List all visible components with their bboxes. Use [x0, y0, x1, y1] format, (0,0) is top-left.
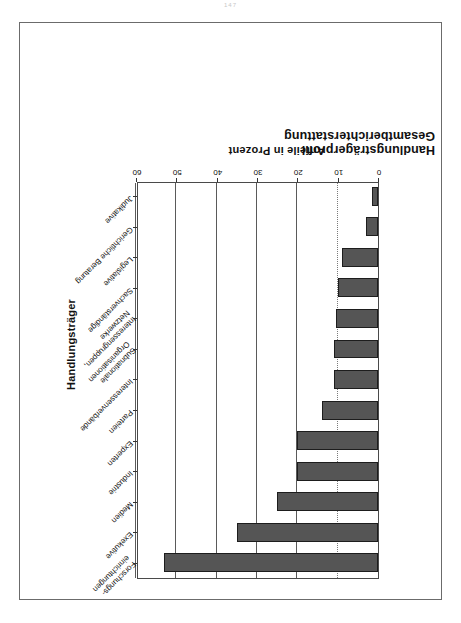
chart-title-line2: Gesamtberichterstattung: [284, 129, 435, 143]
category-label: Parteien: [107, 408, 134, 435]
page-number: 147: [0, 2, 461, 8]
y-tick-mark: [176, 178, 177, 182]
figure-frame: HandlungsträgerprofilGesamtberichterstat…: [19, 22, 442, 600]
bar: [372, 187, 378, 206]
gridline-40: [216, 183, 217, 578]
y-tick-label: 40: [205, 168, 231, 177]
bar: [342, 248, 378, 267]
bar: [297, 431, 378, 450]
bar: [336, 309, 378, 328]
y-tick-mark: [378, 178, 379, 182]
category-label: Gerichtliche Beratung: [74, 225, 134, 285]
category-tick-mark: [133, 349, 137, 350]
bar: [277, 492, 378, 511]
category-label: Forschungs- einrichtungen: [91, 553, 137, 599]
y-tick-mark: [136, 178, 137, 182]
category-label: Experten: [105, 438, 134, 467]
y-tick-mark: [297, 178, 298, 182]
bar: [297, 462, 378, 481]
category-tick-mark: [133, 257, 137, 258]
category-tick-mark: [133, 441, 137, 442]
category-tick-mark: [133, 196, 137, 197]
gridline-50: [175, 183, 176, 578]
category-tick-mark: [133, 471, 137, 472]
y-tick-label: 60: [124, 168, 150, 177]
bar: [366, 217, 378, 236]
y-tick-label: 30: [245, 168, 271, 177]
x-axis-title: Handlungsträger: [65, 299, 77, 390]
bar: [164, 553, 378, 572]
y-tick-mark: [257, 178, 258, 182]
bar: [334, 370, 378, 389]
category-tick-mark: [133, 288, 137, 289]
y-tick-label: 20: [285, 168, 311, 177]
bar: [237, 523, 378, 542]
category-tick-mark: [133, 502, 137, 503]
y-tick-label: 0: [366, 168, 392, 177]
y-tick-mark: [338, 178, 339, 182]
category-label: Interessenverbände: [78, 377, 134, 433]
bar: [334, 340, 378, 359]
gridline-30: [256, 183, 257, 578]
category-label: Industrie: [106, 469, 134, 497]
bar: [338, 278, 378, 297]
category-tick-mark: [133, 410, 137, 411]
category-label: Medien: [109, 499, 134, 524]
category-label: Exekutive: [103, 530, 134, 561]
y-axis-title: Anteile in Prozent: [229, 145, 326, 157]
gridline-60: [135, 183, 136, 578]
rotated-chart-container: HandlungsträgerprofilGesamtberichterstat…: [20, 23, 443, 601]
category-tick-mark: [133, 532, 137, 533]
y-tick-label: 50: [164, 168, 190, 177]
plot-area: [137, 182, 379, 579]
category-tick-mark: [133, 563, 137, 564]
y-tick-mark: [217, 178, 218, 182]
category-tick-mark: [133, 227, 137, 228]
bar: [322, 401, 378, 420]
y-tick-label: 10: [326, 168, 352, 177]
category-label: Judikative: [103, 194, 134, 225]
gridline-20: [296, 183, 297, 578]
category-tick-mark: [133, 318, 137, 319]
category-tick-mark: [133, 380, 137, 381]
